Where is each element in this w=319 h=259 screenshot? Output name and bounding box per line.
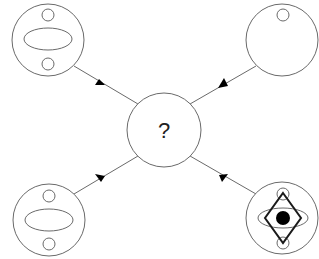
diagram-canvas: ? (0, 0, 319, 259)
edge-top-left (74, 66, 138, 104)
arrowhead-top-right-icon (218, 78, 228, 88)
node-top-left (12, 4, 84, 76)
edge-bottom-left (74, 156, 138, 194)
question-mark: ? (158, 118, 170, 143)
node-top-right (246, 4, 318, 76)
node-bottom-left (13, 184, 85, 256)
arrowhead-bottom-right-icon (219, 174, 228, 182)
node-bottom-right (246, 182, 318, 254)
filled-dot-icon (276, 211, 290, 225)
center-node: ? (127, 93, 201, 167)
